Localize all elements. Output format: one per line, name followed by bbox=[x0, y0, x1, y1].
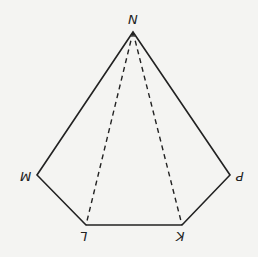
vertex-label-p: P bbox=[236, 170, 244, 183]
pentagon-figure bbox=[0, 0, 258, 257]
dashed-segment-NK bbox=[133, 32, 182, 225]
dashed-segment-NL bbox=[86, 32, 133, 225]
geometry-diagram: N P K L M bbox=[0, 0, 258, 257]
vertex-label-n: N bbox=[128, 13, 138, 26]
vertex-label-k: K bbox=[176, 230, 185, 243]
vertex-label-l: L bbox=[80, 230, 87, 243]
vertex-label-m: M bbox=[20, 170, 31, 183]
pentagon-outline bbox=[37, 32, 230, 225]
